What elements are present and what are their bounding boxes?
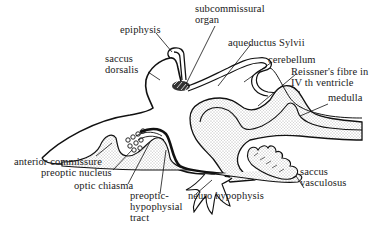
label-cerebellum: cerebellum	[268, 54, 316, 65]
label-optic-chiasma: optic chiasma	[74, 180, 133, 191]
label-saccus-vasculosus-2: vasculosus	[300, 177, 347, 188]
label-medulla: medulla	[328, 92, 363, 103]
label-subcommissural-organ-2: organ	[195, 14, 219, 25]
label-saccus-dorsalis-2: dorsalis	[105, 64, 138, 75]
label-saccus-dorsalis-1: saccus	[105, 53, 133, 64]
label-preoptic-hypophysial-tract-3: tract	[130, 212, 149, 223]
label-aqueductus-sylvii: aqueductus Sylvii	[228, 37, 305, 48]
label-subcommissural-organ-1: subcommissural	[195, 3, 265, 14]
label-preoptic-nucleus: preoptic nucleus	[41, 167, 112, 178]
label-reissner-fibre-1: Reissner's fibre in	[291, 66, 368, 77]
label-preoptic-hypophysial-tract-2: hypophysial	[130, 201, 182, 212]
label-anterior-commissure: anterior commissure	[14, 156, 102, 167]
label-preoptic-hypophysial-tract-1: preoptic-	[130, 190, 169, 201]
label-reissner-fibre-2: IV th ventricle	[291, 77, 354, 88]
label-epiphysis: epiphysis	[120, 24, 161, 35]
label-neuro-hypophysis: neuro hypophysis	[188, 190, 264, 201]
label-saccus-vasculosus-1: saccus	[300, 166, 328, 177]
aqueduct-tube	[188, 58, 258, 91]
